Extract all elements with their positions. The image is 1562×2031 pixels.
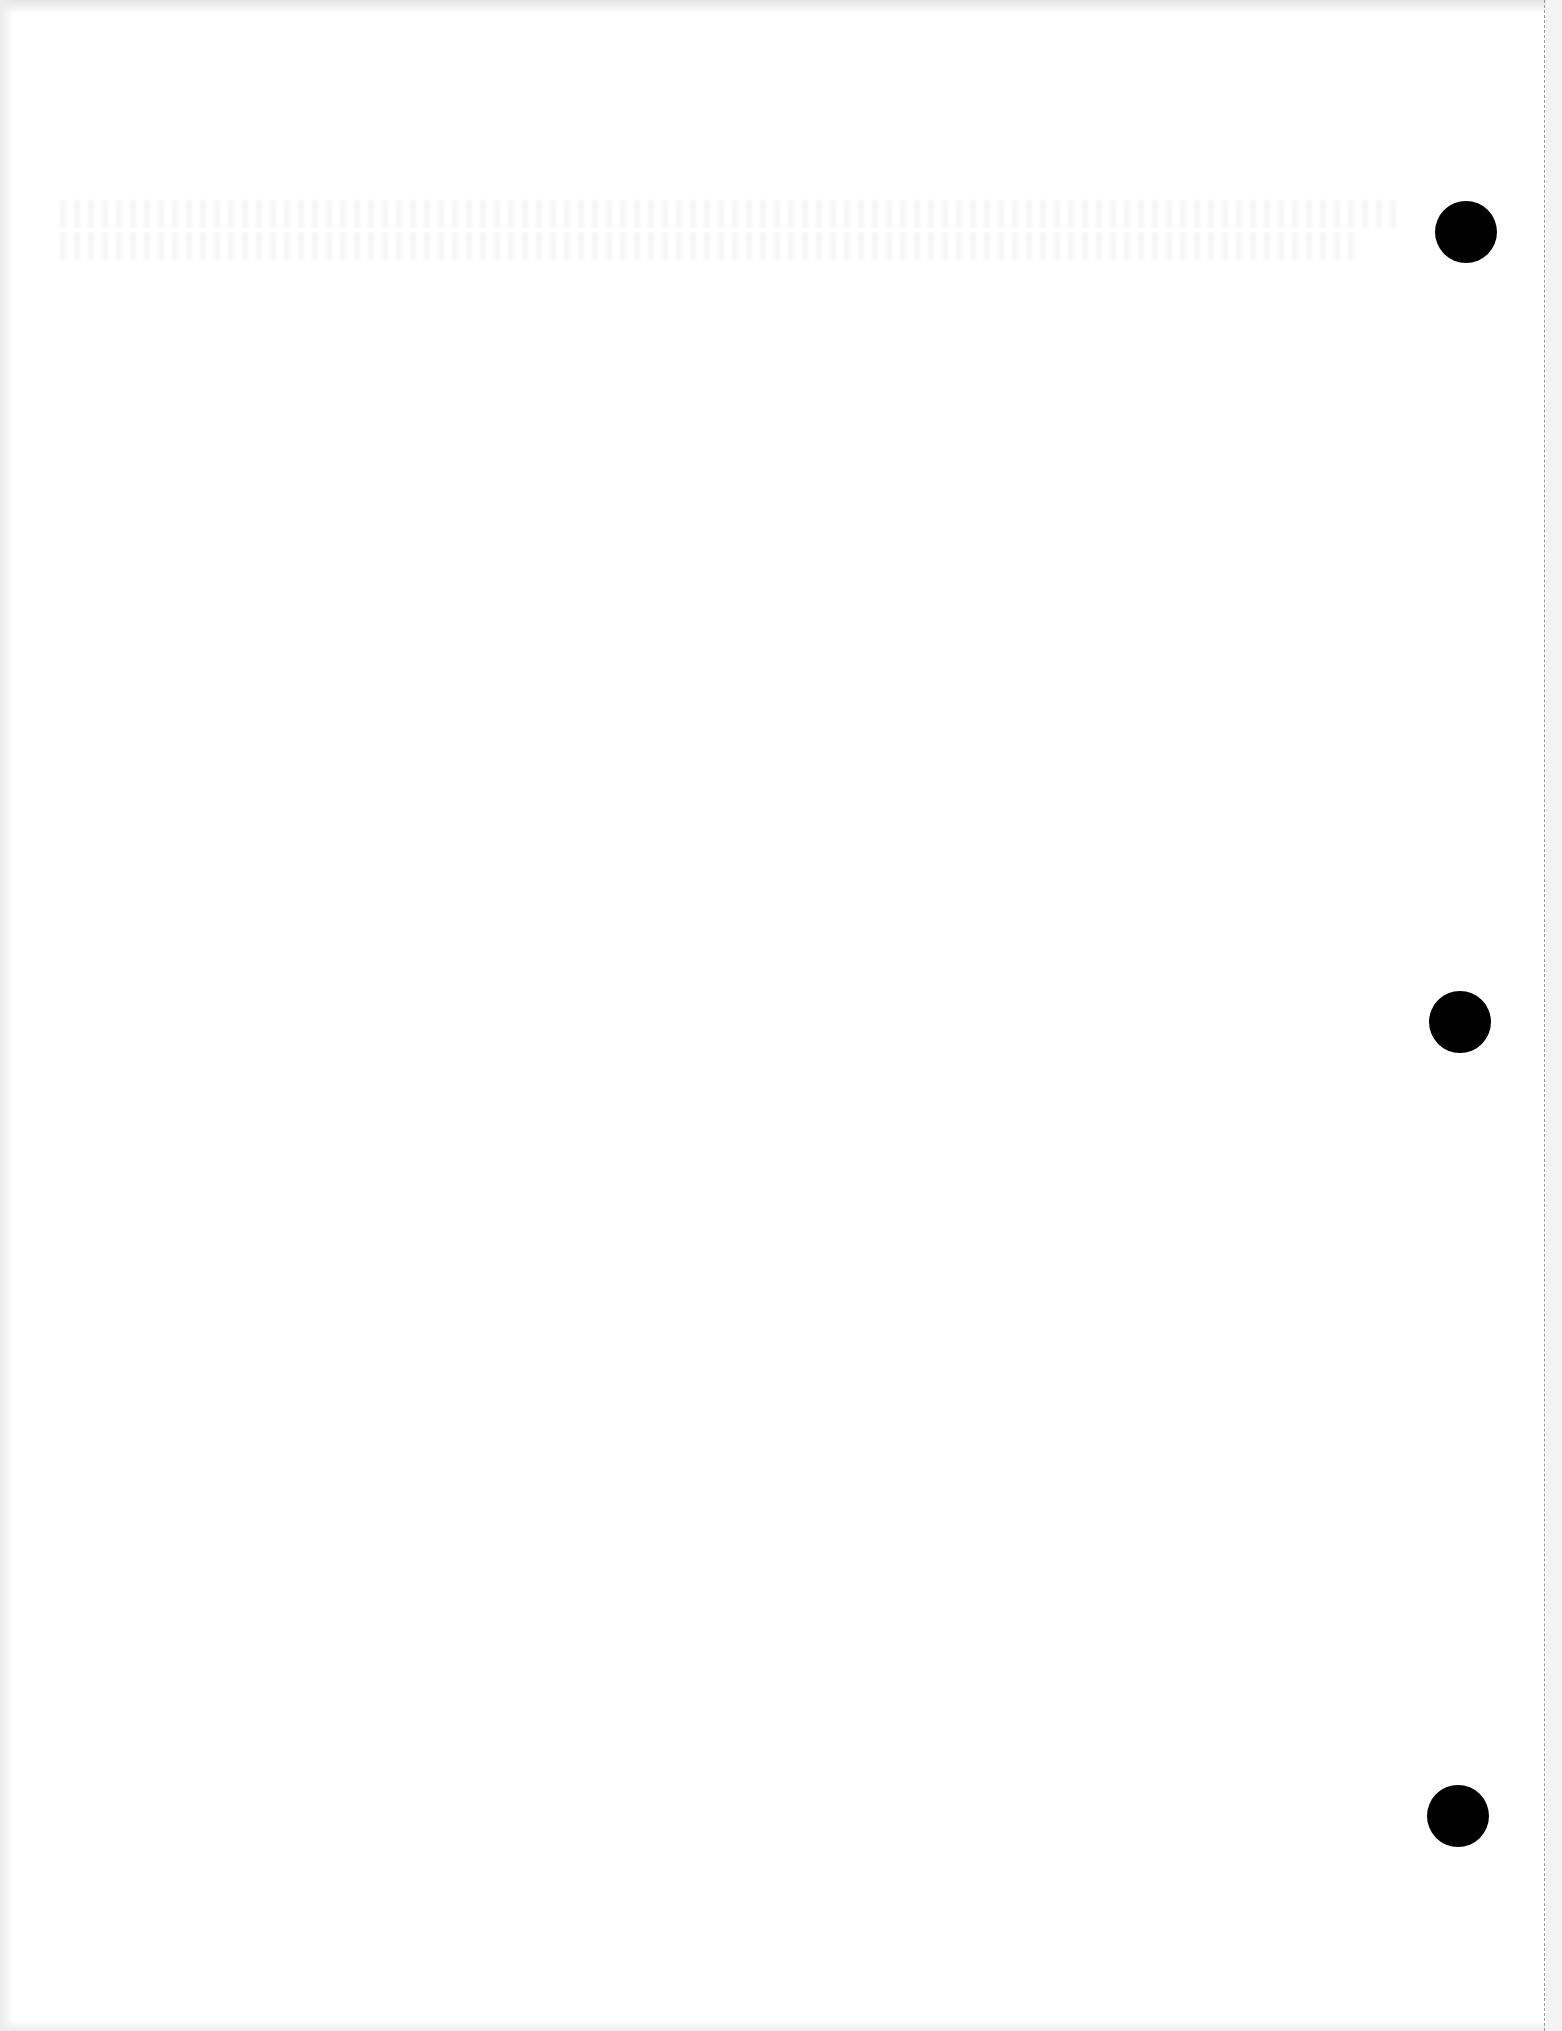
punch-hole-bottom: [1427, 1785, 1489, 1847]
left-edge-shadow: [0, 0, 14, 2031]
top-edge-shadow: [0, 0, 1562, 14]
punch-hole-top: [1435, 201, 1497, 263]
right-tear-margin: [1546, 0, 1562, 2031]
bottom-edge-shadow: [0, 2021, 1562, 2031]
show-through-mark: [60, 232, 1360, 260]
paper-sheet: [0, 0, 1562, 2031]
punch-hole-middle: [1429, 991, 1491, 1053]
show-through-mark: [60, 200, 1400, 228]
perforation-line: [1544, 0, 1545, 2031]
